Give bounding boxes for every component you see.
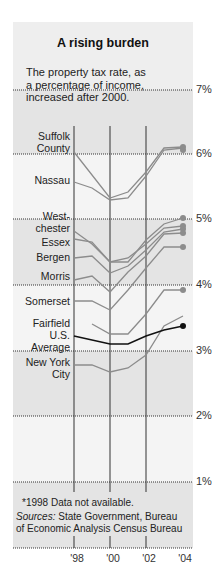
label-essex: Essex xyxy=(0,237,70,249)
x-tick-00: '00 xyxy=(101,552,125,564)
label-morris: Morris xyxy=(0,271,70,283)
subtitle-line-3: increased after 2000. xyxy=(26,91,186,104)
y-tick-3: 3% xyxy=(196,344,212,356)
label-suffolk: SuffolkCounty xyxy=(0,131,70,154)
label-westchester: West-chester xyxy=(0,211,70,234)
y-tick-7: 7% xyxy=(196,83,212,95)
x-tick-98: '98 xyxy=(65,552,89,564)
label-nyc: New YorkCity xyxy=(0,357,70,380)
band-1-2 xyxy=(13,416,193,482)
x-tick-04: '04 xyxy=(173,552,197,564)
sources-line1: State Government, Bureau xyxy=(55,511,177,522)
y-tick-4: 4% xyxy=(196,278,212,290)
label-us-average: U.S.Average xyxy=(0,330,70,353)
chart-title: A rising burden xyxy=(13,36,193,50)
label-somerset: Somerset xyxy=(0,296,70,308)
label-nassau: Nassau xyxy=(0,175,70,187)
label-fairfield: Fairfield xyxy=(0,318,70,330)
sources: Sources: State Government, Bureau of Eco… xyxy=(16,511,196,534)
us-average-end-dot xyxy=(180,323,186,329)
subtitle-line-2: a percentage of income, xyxy=(26,79,186,92)
sources-line2: of Economic Analysis Census Bureau xyxy=(16,523,182,534)
chart-subtitle: The property tax rate, as a percentage o… xyxy=(26,66,186,104)
y-tick-6: 6% xyxy=(196,147,212,159)
y-tick-2: 2% xyxy=(196,409,212,421)
x-tick-02: '02 xyxy=(137,552,161,564)
subtitle-line-1: The property tax rate, as xyxy=(26,66,186,79)
label-bergen: Bergen xyxy=(0,252,70,264)
y-tick-5: 5% xyxy=(196,212,212,224)
y-tick-1: 1% xyxy=(196,475,212,487)
band-5-6 xyxy=(13,154,193,219)
sources-label: Sources: xyxy=(16,511,55,522)
footnote: *1998 Data not available. xyxy=(22,497,134,508)
